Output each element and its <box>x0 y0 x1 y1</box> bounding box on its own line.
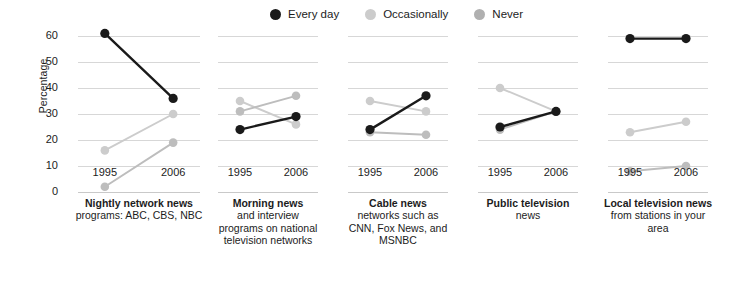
series-line <box>105 33 173 98</box>
legend-label-never: Never <box>492 9 523 20</box>
series-line <box>105 114 173 150</box>
data-point <box>292 120 301 129</box>
data-point <box>496 84 505 93</box>
data-point <box>101 146 110 155</box>
data-point <box>236 107 245 116</box>
panel-caption-line: news <box>461 209 595 221</box>
panel-caption-title: Cable news <box>331 197 465 209</box>
panel-caption: Local television newsfrom stations in yo… <box>591 197 725 234</box>
panel-caption: Nightly network newsprograms: ABC, CBS, … <box>61 197 217 222</box>
panel-caption-line: networks such as <box>331 209 465 221</box>
data-point <box>422 107 431 116</box>
data-point <box>366 97 375 106</box>
x-tick-label: 1995 <box>477 166 523 178</box>
legend-label-occasionally: Occasionally <box>383 9 448 20</box>
panel-caption-line: and interview <box>201 209 335 221</box>
data-point <box>551 107 560 116</box>
x-tick-label: 1995 <box>607 166 653 178</box>
y-tick-label: 50 <box>34 55 58 67</box>
data-point <box>291 112 300 121</box>
series-line <box>370 101 426 111</box>
panel-caption-line: from stations in your <box>591 209 725 221</box>
data-point <box>681 34 690 43</box>
data-point <box>100 29 109 38</box>
y-tick-label: 20 <box>34 133 58 145</box>
data-point <box>495 122 504 131</box>
x-axis-line <box>78 192 200 193</box>
legend-swatch-every-day <box>270 9 281 20</box>
x-tick-label: 1995 <box>217 166 263 178</box>
series-line <box>500 111 556 127</box>
data-point <box>682 118 691 127</box>
slopegraph-chart: Every day Occasionally Never Percentage … <box>0 0 750 293</box>
panel-caption-title: Morning news <box>201 197 335 209</box>
x-axis-line <box>608 192 708 193</box>
legend-item-occasionally: Occasionally <box>365 9 448 20</box>
series-line <box>105 143 173 187</box>
panel-caption-line: area <box>591 222 725 234</box>
y-tick-label: 0 <box>34 185 58 197</box>
series-line <box>370 132 426 135</box>
x-tick-label: 2006 <box>663 166 709 178</box>
data-point <box>101 183 110 192</box>
data-point <box>421 91 430 100</box>
series-line <box>370 96 426 130</box>
x-tick-label: 2006 <box>403 166 449 178</box>
panel-caption-line: programs: ABC, CBS, NBC <box>61 209 217 221</box>
y-tick-label: 10 <box>34 159 58 171</box>
panel-caption: Public televisionnews <box>461 197 595 222</box>
series-line <box>500 88 556 111</box>
legend-label-every-day: Every day <box>288 9 339 20</box>
x-tick-label: 2006 <box>150 166 196 178</box>
x-axis-line <box>348 192 448 193</box>
series-line <box>240 117 296 130</box>
data-point <box>292 92 301 101</box>
y-tick-label: 60 <box>34 29 58 41</box>
panel-caption: Morning newsand interviewprograms on nat… <box>201 197 335 247</box>
y-tick-label: 30 <box>34 107 58 119</box>
data-point <box>626 128 635 137</box>
data-point <box>169 94 178 103</box>
data-point <box>235 125 244 134</box>
legend-swatch-occasionally <box>365 9 376 20</box>
data-point <box>169 110 178 119</box>
panel-caption-line: MSNBC <box>331 234 465 246</box>
panel-caption-title: Nightly network news <box>61 197 217 209</box>
panel-caption-line: programs on national <box>201 222 335 234</box>
panel-caption-title: Public television <box>461 197 595 209</box>
y-tick-label: 40 <box>34 81 58 93</box>
x-tick-label: 1995 <box>82 166 128 178</box>
x-tick-label: 2006 <box>273 166 319 178</box>
data-point <box>169 138 178 147</box>
x-axis-line <box>218 192 318 193</box>
x-tick-label: 1995 <box>347 166 393 178</box>
data-point <box>422 131 431 140</box>
panel-caption: Cable newsnetworks such asCNN, Fox News,… <box>331 197 465 247</box>
series-line <box>630 122 686 132</box>
data-point <box>365 125 374 134</box>
chart-legend: Every day Occasionally Never <box>270 9 523 20</box>
panel-caption-title: Local television news <box>591 197 725 209</box>
data-point <box>236 97 245 106</box>
panel-caption-line: television networks <box>201 234 335 246</box>
legend-item-never: Never <box>474 9 523 20</box>
x-axis-line <box>478 192 578 193</box>
x-tick-label: 2006 <box>533 166 579 178</box>
data-point <box>625 34 634 43</box>
legend-item-every-day: Every day <box>270 9 339 20</box>
legend-swatch-never <box>474 9 485 20</box>
panel-caption-line: CNN, Fox News, and <box>331 222 465 234</box>
